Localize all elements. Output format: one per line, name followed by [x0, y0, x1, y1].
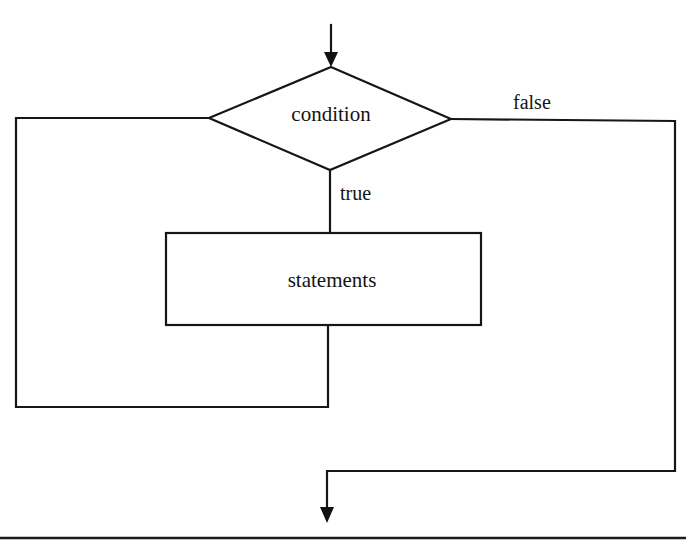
true-label: true [340, 182, 371, 204]
condition-node: condition [209, 67, 451, 170]
true-branch: true [330, 170, 371, 233]
while-loop-flowchart: condition true statements false [0, 0, 686, 542]
entry-arrow [324, 25, 338, 67]
arrow-down-icon [324, 52, 338, 67]
statements-label: statements [288, 268, 377, 292]
false-label: false [513, 91, 551, 113]
arrow-down-icon [320, 507, 334, 523]
statements-node: statements [166, 233, 481, 325]
condition-label: condition [291, 102, 371, 126]
